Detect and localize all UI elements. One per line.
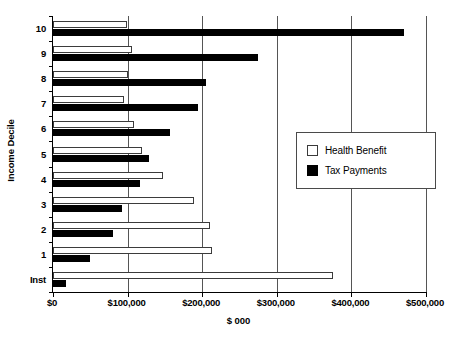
y-axis-tick [49, 167, 53, 168]
bar-health-benefit [53, 96, 124, 103]
x-axis-tick-label: $0 [47, 297, 57, 308]
legend-label: Tax Payments [325, 165, 387, 176]
bar-tax-payments [53, 54, 258, 61]
bar-row [53, 217, 426, 242]
bar-row [53, 41, 426, 66]
y-axis-tick-label: 4 [16, 167, 50, 192]
y-axis-tick [49, 41, 53, 42]
legend-item[interactable]: Tax Payments [307, 160, 427, 180]
x-axis-tick-label: $400,000 [331, 297, 369, 308]
y-axis-tick [49, 192, 53, 193]
y-axis-tick-label: 3 [16, 192, 50, 217]
y-axis-tick-label: 2 [16, 217, 50, 242]
bar-tax-payments [53, 104, 198, 111]
y-axis-tick [49, 242, 53, 243]
x-axis-tick-label: $300,000 [257, 297, 295, 308]
bar-row [53, 16, 426, 41]
y-axis-tick-label: 8 [16, 66, 50, 91]
y-axis-tick-label: 9 [16, 41, 50, 66]
legend-item[interactable]: Health Benefit [307, 140, 427, 160]
y-axis-tick-label: 7 [16, 91, 50, 116]
x-axis-tick-label: $500,000 [406, 297, 444, 308]
bar-health-benefit [53, 197, 194, 204]
bar-tax-payments [53, 79, 206, 86]
bar-tax-payments [53, 180, 140, 187]
bar-tax-payments [53, 29, 404, 36]
bar-chart: Income Decile 10987654321Inst Health Ben… [0, 0, 456, 339]
y-axis-tick [49, 16, 53, 17]
bar-tax-payments [53, 280, 66, 287]
y-axis-tick [49, 91, 53, 92]
y-axis-tick-label: 6 [16, 116, 50, 141]
bar-row [53, 192, 426, 217]
bar-health-benefit [53, 272, 333, 279]
y-axis-tick-labels: 10987654321Inst [16, 16, 50, 292]
bar-health-benefit [53, 222, 210, 229]
y-axis-tick-label: 5 [16, 141, 50, 166]
bar-health-benefit [53, 71, 128, 78]
y-axis-title-text: Income Decile [5, 119, 16, 182]
y-axis-tick-label: 1 [16, 242, 50, 267]
y-axis-tick-label: Inst [16, 267, 50, 292]
open-square-swatch [307, 145, 318, 156]
y-axis-tick [49, 66, 53, 67]
bar-row [53, 242, 426, 267]
y-axis-tick [49, 267, 53, 268]
y-axis-tick [49, 141, 53, 142]
bar-tax-payments [53, 255, 90, 262]
bar-row [53, 267, 426, 292]
y-axis-tick [49, 116, 53, 117]
x-axis-tick-label: $100,000 [108, 297, 146, 308]
bar-tax-payments [53, 129, 170, 136]
bar-row [53, 66, 426, 91]
legend-label: Health Benefit [325, 145, 386, 156]
bar-health-benefit [53, 147, 142, 154]
y-axis-tick-label: 10 [16, 16, 50, 41]
y-axis-tick [49, 292, 53, 293]
bar-tax-payments [53, 230, 113, 237]
bar-tax-payments [53, 205, 122, 212]
y-axis-tick [49, 217, 53, 218]
x-axis-title: $ 000 [52, 315, 425, 326]
bar-health-benefit [53, 172, 163, 179]
chart-legend: Health BenefitTax Payments [296, 132, 436, 189]
bar-health-benefit [53, 21, 127, 28]
filled-square-swatch [307, 165, 318, 176]
bar-health-benefit [53, 46, 132, 53]
bar-health-benefit [53, 121, 134, 128]
bar-row [53, 91, 426, 116]
bar-health-benefit [53, 247, 212, 254]
x-axis-tick-label: $200,000 [182, 297, 220, 308]
x-axis-tick-labels: $0$100,000$200,000$300,000$400,000$500,0… [52, 297, 425, 311]
bar-tax-payments [53, 155, 149, 162]
